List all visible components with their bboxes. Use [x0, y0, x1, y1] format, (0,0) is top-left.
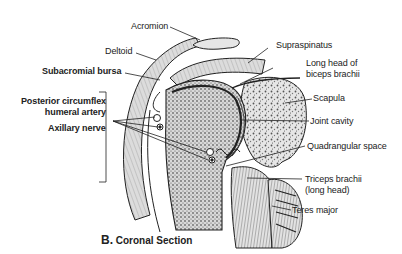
subacromial-bursa-shape [153, 92, 160, 112]
figure-caption: B. Coronal Section [101, 233, 192, 247]
label-long-head-biceps-line1: Long head of [306, 58, 357, 69]
label-scapula: Scapula [313, 93, 345, 104]
label-posterior-circumflex-line1: Posterior circumflex [6, 96, 106, 107]
label-triceps-line1: Triceps brachii [305, 174, 362, 185]
label-supraspinatus: Supraspinatus [276, 40, 332, 51]
caption-letter: B. [101, 233, 113, 247]
label-teres-major: Teres major [292, 205, 338, 216]
label-acromion: Acromion [131, 21, 168, 32]
label-long-head-biceps-line2: biceps brachii [306, 69, 360, 80]
label-deltoid: Deltoid [105, 46, 132, 57]
label-posterior-circumflex-line2: humeral artery [6, 107, 106, 118]
label-quadrangular-space: Quadrangular space [307, 141, 387, 152]
label-joint-cavity: Joint cavity [310, 116, 353, 127]
label-axillary-nerve: Axillary nerve [48, 123, 106, 134]
triceps-shape [231, 167, 272, 248]
shoulder-coronal-section-figure: Acromion Deltoid Subacromial bursa Poste… [0, 0, 402, 254]
label-triceps-line2: (long head) [305, 185, 349, 196]
label-subacromial-bursa: Subacromial bursa [42, 66, 121, 77]
caption-text: Coronal Section [116, 235, 193, 246]
